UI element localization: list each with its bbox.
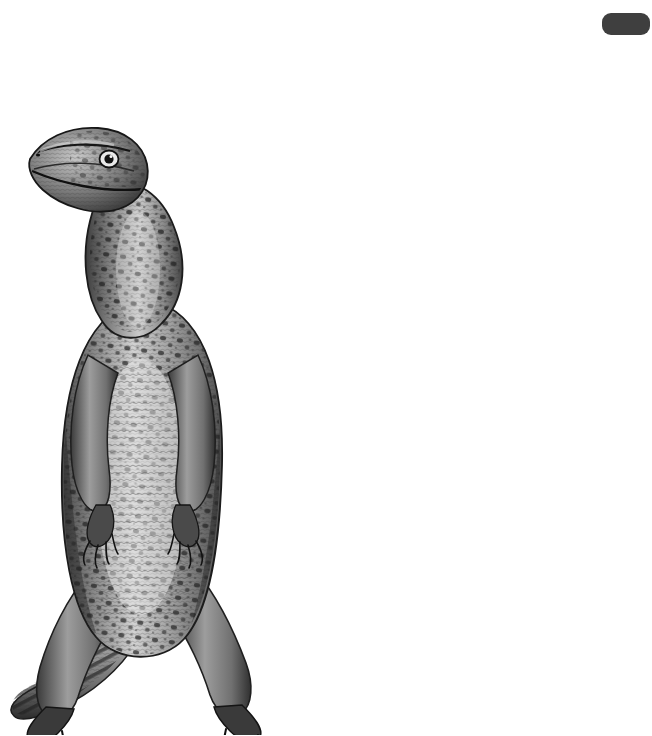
phylogeny-chart [291,25,652,695]
monitor-lizard-engraving [10,55,310,735]
lizard-eye [100,151,119,168]
corner-tab [602,13,650,35]
cladogram [291,25,652,695]
